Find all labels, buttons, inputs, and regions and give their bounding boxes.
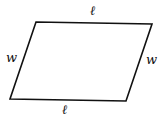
- label-left-width: w: [6, 50, 17, 65]
- parallelogram-diagram: ℓ ℓ w w: [0, 0, 163, 119]
- label-top-length: ℓ: [90, 3, 96, 18]
- parallelogram-shape: [10, 22, 152, 101]
- label-right-width: w: [146, 52, 157, 67]
- label-bottom-length: ℓ: [62, 102, 68, 117]
